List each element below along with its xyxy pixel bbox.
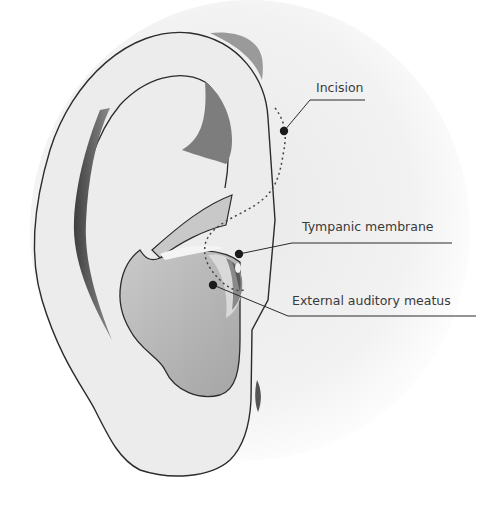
label-tympanic-membrane: Tympanic membrane <box>301 219 434 234</box>
incision-marker-dot <box>280 127 288 135</box>
tympanic-membrane-marker-dot <box>235 250 243 258</box>
ear-illustration: Incision Tympanic membrane External audi… <box>0 0 498 507</box>
label-external-auditory-meatus: External auditory meatus <box>292 293 451 308</box>
external-auditory-meatus-marker-dot <box>209 281 217 289</box>
ear-diagram: Incision Tympanic membrane External audi… <box>0 0 498 507</box>
label-incision: Incision <box>316 80 364 95</box>
